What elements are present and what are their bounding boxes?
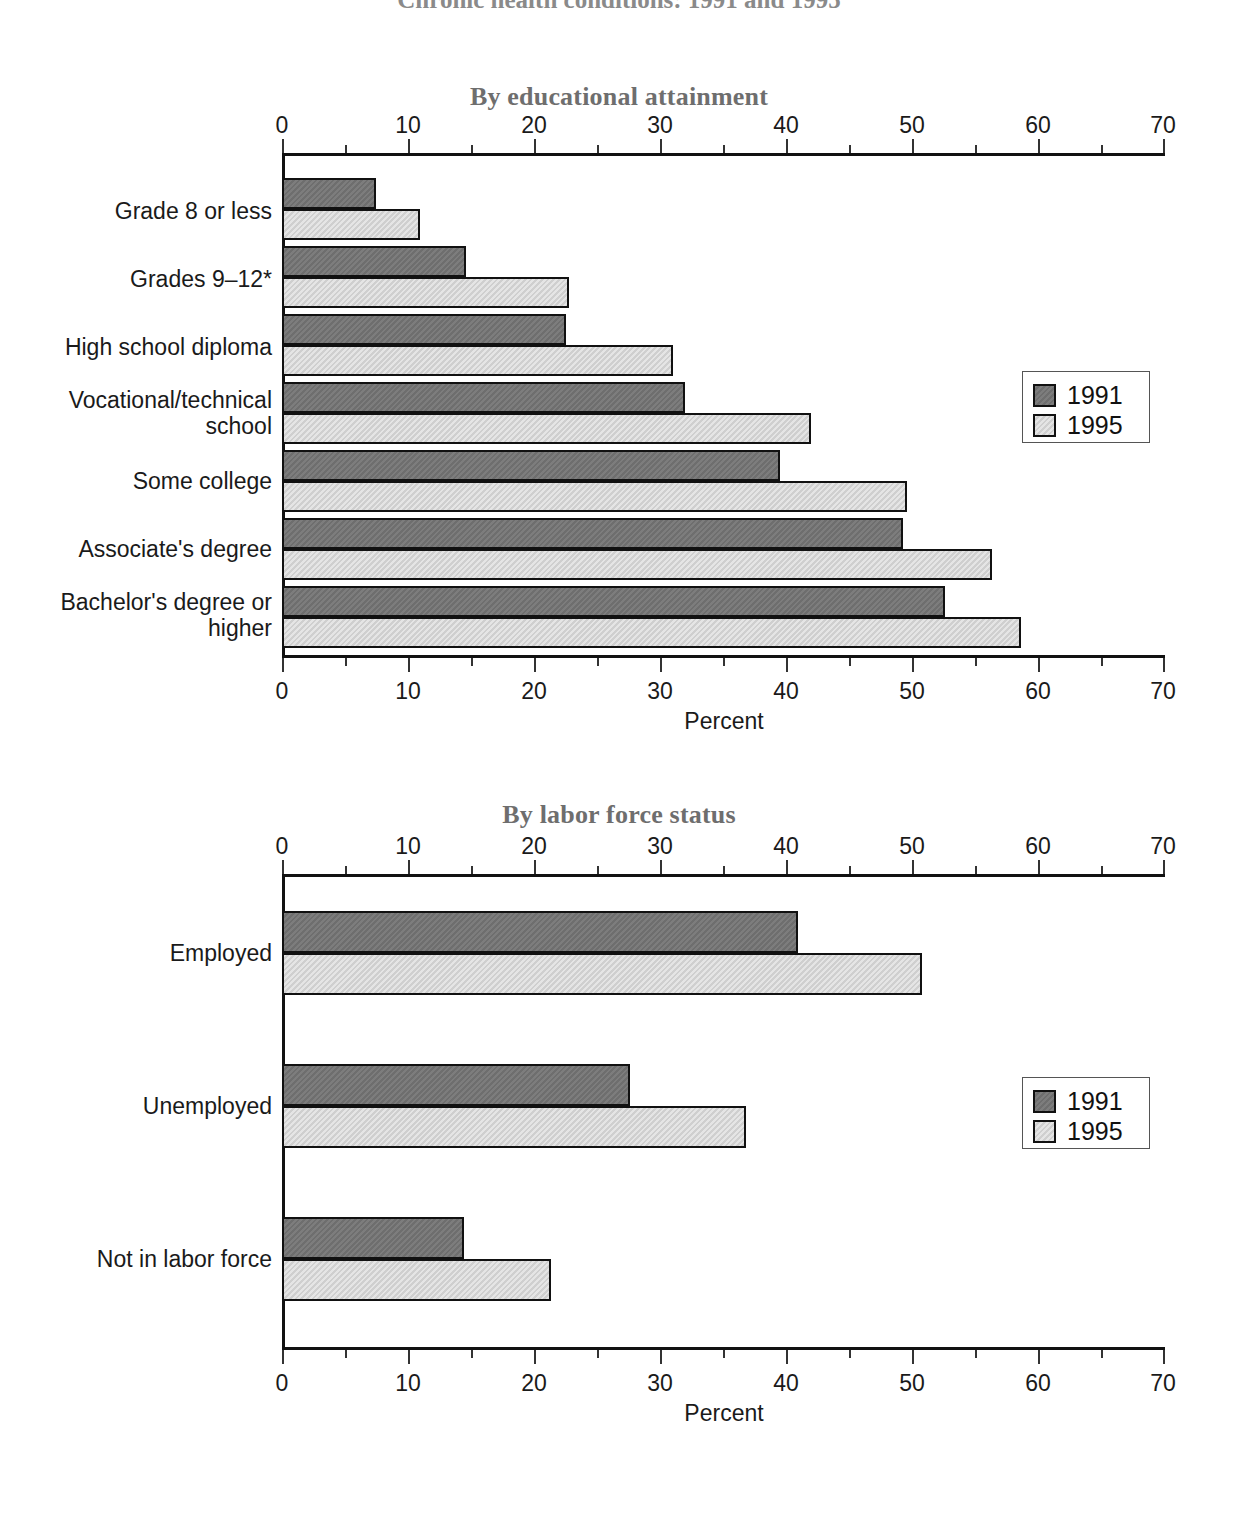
- xtick2-label-bottom-0: 0: [252, 1370, 312, 1397]
- bar-1995-not-in-labor-force: [282, 1259, 551, 1301]
- bar-1995-employed: [282, 953, 922, 995]
- legend-item-1991-2: 1991: [1033, 1086, 1135, 1116]
- xtick2-label-bottom-30: 30: [630, 1370, 690, 1397]
- xtick-label-top-40: 40: [756, 112, 816, 139]
- xtick-bottom-65: [1101, 658, 1103, 666]
- xtick-top-55: [975, 145, 977, 153]
- bar-1991-not-in-labor-force: [282, 1217, 464, 1259]
- xtick2-top-45: [849, 866, 851, 874]
- xtick-top-40: [786, 139, 788, 153]
- xtick-bottom-35: [723, 658, 725, 666]
- xtick-label-top-60: 60: [1008, 112, 1068, 139]
- axis-top-line: [282, 153, 1165, 156]
- xtick-bottom-25: [597, 658, 599, 666]
- xtick-bottom-10: [408, 658, 410, 672]
- xtick2-bottom-35: [723, 1350, 725, 1358]
- xtick2-bottom-65: [1101, 1350, 1103, 1358]
- legend-swatch-1995-icon: [1033, 414, 1056, 437]
- xtick-top-15: [471, 145, 473, 153]
- legend-label-1991-2: 1991: [1067, 1087, 1123, 1116]
- xtick2-label-top-10: 10: [378, 833, 438, 860]
- xtick2-top-40: [786, 860, 788, 874]
- xtick2-bottom-30: [660, 1350, 662, 1364]
- xtick-bottom-60: [1038, 658, 1040, 672]
- bar-1991-vocational-technical-school: [282, 382, 685, 413]
- xtick-bottom-5: [345, 658, 347, 666]
- xtick2-label-top-50: 50: [882, 833, 942, 860]
- xtick-bottom-40: [786, 658, 788, 672]
- xtick-label-bottom-20: 20: [504, 678, 564, 705]
- xtick-label-bottom-40: 40: [756, 678, 816, 705]
- xtick-bottom-50: [912, 658, 914, 672]
- bar-1991-some-college: [282, 450, 780, 481]
- legend-swatch-1991-icon: [1033, 384, 1056, 407]
- category-label-unemployed: Unemployed: [12, 1093, 272, 1119]
- xtick2-label-bottom-40: 40: [756, 1370, 816, 1397]
- bar-1991-grades-9-12: [282, 246, 466, 277]
- chart-title-labor-force-status: By labor force status: [0, 800, 1238, 830]
- xtick2-label-top-40: 40: [756, 833, 816, 860]
- bar-1991-unemployed: [282, 1064, 630, 1106]
- bar-1991-high-school-diploma: [282, 314, 566, 345]
- bar-1995-bachelors-degree-or-higher: [282, 617, 1021, 648]
- xtick-label-bottom-0: 0: [252, 678, 312, 705]
- legend-label-1991: 1991: [1067, 381, 1123, 410]
- bar-1995-high-school-diploma: [282, 345, 673, 376]
- legend-item-1991: 1991: [1033, 380, 1135, 410]
- xtick2-label-top-60: 60: [1008, 833, 1068, 860]
- xtick2-bottom-20: [534, 1350, 536, 1364]
- xtick-label-top-70: 70: [1133, 112, 1193, 139]
- xtick-bottom-30: [660, 658, 662, 672]
- legend-item-1995: 1995: [1033, 410, 1135, 440]
- x-axis-label-percent-2: Percent: [624, 1400, 824, 1427]
- xtick-top-20: [534, 139, 536, 153]
- xtick-bottom-20: [534, 658, 536, 672]
- category-label-vocational-technical-school: Vocational/technical school: [32, 387, 272, 440]
- xtick-top-60: [1038, 139, 1040, 153]
- xtick2-bottom-5: [345, 1350, 347, 1358]
- xtick2-label-bottom-60: 60: [1008, 1370, 1068, 1397]
- xtick-bottom-45: [849, 658, 851, 666]
- xtick-label-top-50: 50: [882, 112, 942, 139]
- xtick-bottom-15: [471, 658, 473, 666]
- xtick2-top-30: [660, 860, 662, 874]
- category-label-bachelors-degree-or-higher: Bachelor's degree or higher: [12, 589, 272, 642]
- xtick2-bottom-10: [408, 1350, 410, 1364]
- xtick2-label-bottom-50: 50: [882, 1370, 942, 1397]
- bar-1995-grades-9-12: [282, 277, 569, 308]
- xtick2-top-65: [1101, 866, 1103, 874]
- xtick2-label-top-20: 20: [504, 833, 564, 860]
- legend-label-1995-2: 1995: [1067, 1117, 1123, 1146]
- xtick2-top-5: [345, 866, 347, 874]
- xtick2-bottom-50: [912, 1350, 914, 1364]
- xtick2-bottom-70: [1163, 1350, 1165, 1364]
- xtick2-top-0: [282, 860, 284, 874]
- xtick-label-top-0: 0: [252, 112, 312, 139]
- xtick-top-65: [1101, 145, 1103, 153]
- xtick-label-bottom-50: 50: [882, 678, 942, 705]
- xtick2-top-50: [912, 860, 914, 874]
- xtick-top-0: [282, 139, 284, 153]
- xtick-top-50: [912, 139, 914, 153]
- xtick-label-top-10: 10: [378, 112, 438, 139]
- xtick-top-5: [345, 145, 347, 153]
- xtick2-label-top-0: 0: [252, 833, 312, 860]
- xtick2-top-55: [975, 866, 977, 874]
- xtick-label-bottom-10: 10: [378, 678, 438, 705]
- xtick2-top-15: [471, 866, 473, 874]
- xtick2-top-60: [1038, 860, 1040, 874]
- bar-1995-associates-degree: [282, 549, 992, 580]
- xtick-top-70: [1163, 139, 1165, 153]
- category-label-grade-8-or-less: Grade 8 or less: [12, 198, 272, 224]
- xtick-top-25: [597, 145, 599, 153]
- chart-panel-educational-attainment: By educational attainment 0 10 20 30 40 …: [0, 0, 1238, 760]
- xtick2-bottom-40: [786, 1350, 788, 1364]
- xtick2-bottom-45: [849, 1350, 851, 1358]
- axis2-top-line: [282, 874, 1165, 877]
- xtick2-bottom-15: [471, 1350, 473, 1358]
- chart-panel-labor-force-status: By labor force status 0 10 20 30 40 50 6…: [0, 780, 1238, 1480]
- xtick2-top-10: [408, 860, 410, 874]
- xtick2-top-70: [1163, 860, 1165, 874]
- x-axis-label-percent: Percent: [624, 708, 824, 735]
- legend-educational-attainment: 1991 1995: [1022, 371, 1150, 443]
